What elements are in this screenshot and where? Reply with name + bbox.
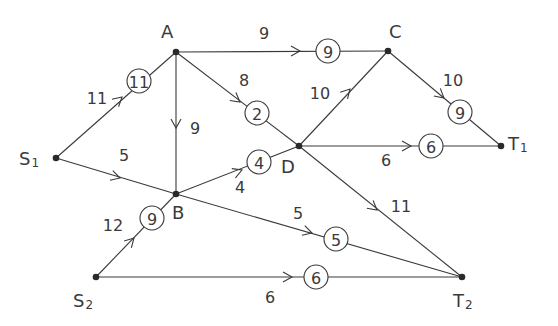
node-s2: S2: [73, 274, 99, 312]
flow-network-diagram: 1192496596 115998410106115126 S1S2ABCDT1…: [0, 0, 558, 326]
capacity-label: 6: [381, 151, 391, 170]
flow-value: 6: [311, 269, 321, 288]
node-d: D: [281, 143, 302, 177]
capacity-label: 12: [103, 216, 123, 235]
capacity-label: 11: [391, 197, 411, 216]
node-s1: S1: [19, 148, 59, 171]
capacity-label: 5: [119, 146, 129, 165]
node-label: S2: [73, 290, 93, 313]
edge-s1-b: [56, 158, 176, 194]
edge-s2-b: [96, 194, 176, 277]
node-c: C: [385, 21, 402, 55]
flow-value-c-t1: 9: [448, 100, 472, 124]
flow-value-a-d: 2: [245, 101, 269, 125]
node-label: S1: [19, 148, 39, 171]
node-dot: [173, 191, 180, 198]
capacity-labels: 115998410106115126: [87, 24, 463, 307]
capacity-label: 6: [265, 288, 275, 307]
capacity-label: 8: [239, 71, 249, 90]
edge-s1-a: [56, 52, 176, 158]
node-label: T1: [507, 133, 528, 156]
node-label: D: [281, 156, 295, 177]
flow-value-a-c: 9: [316, 39, 340, 63]
flow-value-s2-b: 9: [140, 206, 164, 230]
flow-value: 2: [252, 105, 262, 124]
arrows: [110, 46, 444, 282]
capacity-label: 5: [293, 204, 303, 223]
capacity-label: 4: [235, 178, 245, 197]
node-dot: [173, 49, 180, 56]
capacity-label: 9: [259, 24, 269, 43]
node-label: C: [389, 21, 402, 42]
arrowhead-icon: [112, 97, 122, 107]
node-dot: [459, 274, 466, 281]
node-label: T2: [452, 290, 473, 313]
node-t2: T2: [452, 274, 473, 312]
capacity-label: 9: [190, 119, 200, 138]
flow-value: 4: [254, 154, 264, 173]
edge-a-c: [176, 51, 388, 52]
flow-value: 9: [323, 43, 333, 62]
capacity-label: 10: [443, 71, 463, 90]
node-label: A: [161, 21, 174, 42]
node-dot: [93, 274, 100, 281]
capacity-label: 10: [310, 84, 330, 103]
node-a: A: [161, 21, 179, 56]
capacity-label: 11: [87, 89, 107, 108]
node-label: B: [172, 202, 184, 223]
flow-circles: 1192496596: [127, 39, 472, 289]
flow-value-s1-a: 11: [127, 69, 151, 93]
node-dot: [296, 143, 303, 150]
flow-value: 6: [426, 138, 436, 157]
flow-value-b-d: 4: [247, 150, 271, 174]
node-t1: T1: [498, 133, 528, 156]
flow-value: 9: [455, 104, 465, 123]
flow-value: 11: [129, 73, 149, 92]
flow-value-b-t2: 5: [324, 227, 348, 251]
node-dot: [53, 155, 60, 162]
flow-value-d-t1: 6: [419, 134, 443, 158]
edge-b-t2: [176, 194, 462, 277]
flow-value-s2-t2: 6: [304, 265, 328, 289]
flow-value: 9: [147, 210, 157, 229]
node-dot: [498, 143, 505, 150]
node-dot: [385, 48, 392, 55]
flow-value: 5: [331, 231, 341, 250]
